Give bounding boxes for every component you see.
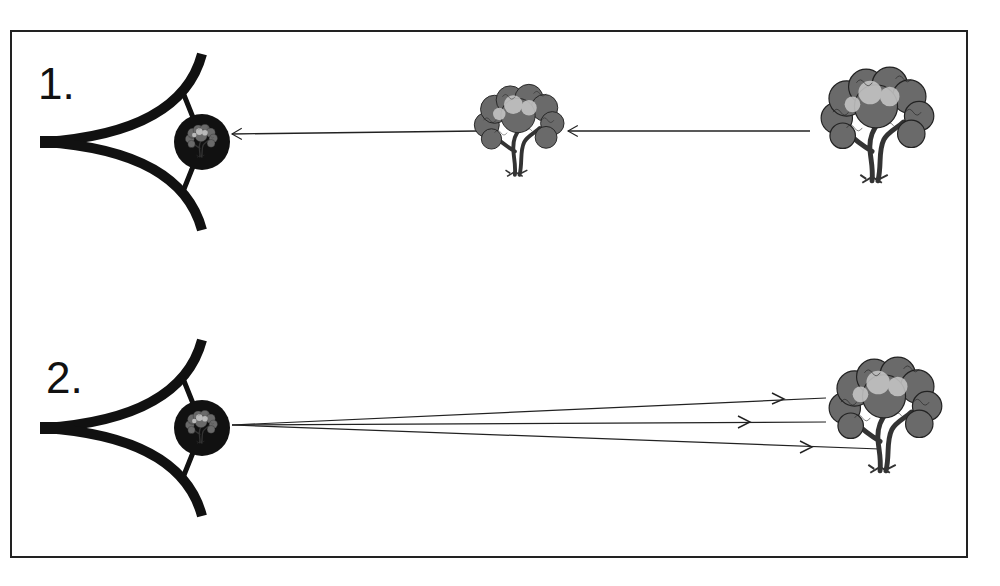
eye-icon — [40, 340, 230, 516]
emission-rays — [232, 393, 880, 453]
panel-1 — [40, 54, 934, 230]
eye-icon — [40, 54, 230, 230]
diagram-canvas — [0, 0, 1000, 586]
panel-2 — [40, 340, 942, 516]
tree-far-icon — [821, 67, 934, 183]
tree-near-icon — [474, 84, 564, 176]
tree-icon — [829, 357, 942, 473]
light-ray-arrow — [232, 131, 478, 134]
chevron-right-icon — [772, 393, 784, 404]
